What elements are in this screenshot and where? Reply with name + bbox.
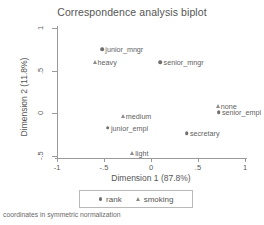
- x-tick-mark: [198, 158, 199, 162]
- data-point-label: junior_empl: [111, 123, 148, 132]
- circle-marker-icon: [185, 131, 189, 135]
- data-point-secretary: secretary: [185, 131, 189, 135]
- data-point-senior_mngr: senior_mngr: [159, 60, 163, 64]
- x-tick-label: -.5: [100, 163, 109, 172]
- triangle-marker-icon: [93, 60, 97, 64]
- data-point-medium: medium: [121, 114, 125, 118]
- circle-marker-icon: [100, 48, 104, 52]
- triangle-marker-icon: [130, 151, 134, 155]
- data-point-junior_empl: junior_empl: [106, 126, 110, 130]
- data-point-label: heavy: [98, 58, 117, 67]
- data-point-junior_mngr: junior_mngr: [100, 48, 104, 52]
- x-tick-label: 0: [149, 163, 153, 172]
- y-tick-label: 1: [36, 18, 52, 38]
- legend-entry-smoking[interactable]: smoking: [136, 195, 174, 204]
- triangle-marker-icon: [136, 197, 140, 201]
- data-point-senior_empl: senior_empl: [217, 111, 221, 115]
- x-tick-label: .5: [195, 163, 201, 172]
- triangle-marker-icon: [216, 104, 220, 108]
- y-axis-title: Dimension 2 (11.8%): [19, 27, 29, 167]
- circle-marker-icon: [159, 60, 163, 64]
- x-tick-mark: [57, 158, 58, 162]
- chart-legend: ranksmoking: [79, 190, 193, 208]
- data-point-label: medium: [126, 111, 152, 120]
- chart-footnote: coordinates in symmetric normalization: [3, 211, 120, 218]
- x-tick-label: 1: [243, 163, 247, 172]
- data-point-heavy: heavy: [93, 60, 97, 64]
- data-point-light: light: [130, 151, 134, 155]
- x-tick-mark: [245, 158, 246, 162]
- x-axis-title: Dimension 1 (87.8%): [57, 173, 245, 183]
- circle-marker-icon: [106, 126, 110, 130]
- x-tick-mark: [151, 158, 152, 162]
- circle-marker-icon: [217, 111, 221, 115]
- y-tick-label: .5: [36, 61, 52, 81]
- legend-label: smoking: [144, 195, 174, 204]
- data-point-label: light: [135, 148, 148, 157]
- legend-label: rank: [106, 195, 122, 204]
- plot-area: junior_mngrsenior_mngrsenior_empljunior_…: [57, 28, 245, 156]
- y-tick-label: -.5: [36, 146, 52, 166]
- x-tick-mark: [104, 158, 105, 162]
- data-point-none: none: [216, 104, 220, 108]
- x-tick-label: -1: [54, 163, 61, 172]
- circle-marker-icon: [99, 197, 103, 201]
- data-point-label: none: [221, 101, 237, 110]
- triangle-marker-icon: [121, 114, 125, 118]
- data-point-label: senior_mngr: [164, 58, 204, 67]
- data-point-label: secretary: [190, 128, 220, 137]
- chart-title: Correspondence analysis biplot: [0, 6, 264, 18]
- data-point-label: junior_mngr: [105, 45, 143, 54]
- correspondence-biplot-figure: Correspondence analysis biplot 1.50-.5 -…: [0, 0, 264, 225]
- y-tick-label: 0: [36, 103, 52, 123]
- y-tick-mark: [52, 156, 57, 157]
- legend-entry-rank[interactable]: rank: [99, 195, 122, 204]
